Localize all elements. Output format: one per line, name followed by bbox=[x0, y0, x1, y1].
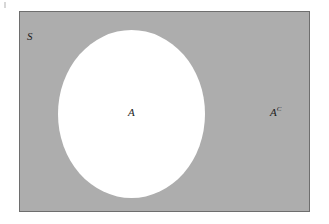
sample-space-label: S bbox=[27, 31, 33, 42]
event-a-label: A bbox=[128, 107, 135, 118]
scan-artifact-speck bbox=[4, 2, 6, 8]
complement-label: AC bbox=[270, 106, 281, 118]
complement-superscript: C bbox=[277, 105, 282, 113]
sample-space-rectangle bbox=[19, 11, 310, 212]
venn-diagram-figure: S A AC bbox=[0, 0, 329, 224]
complement-base: A bbox=[270, 106, 277, 118]
